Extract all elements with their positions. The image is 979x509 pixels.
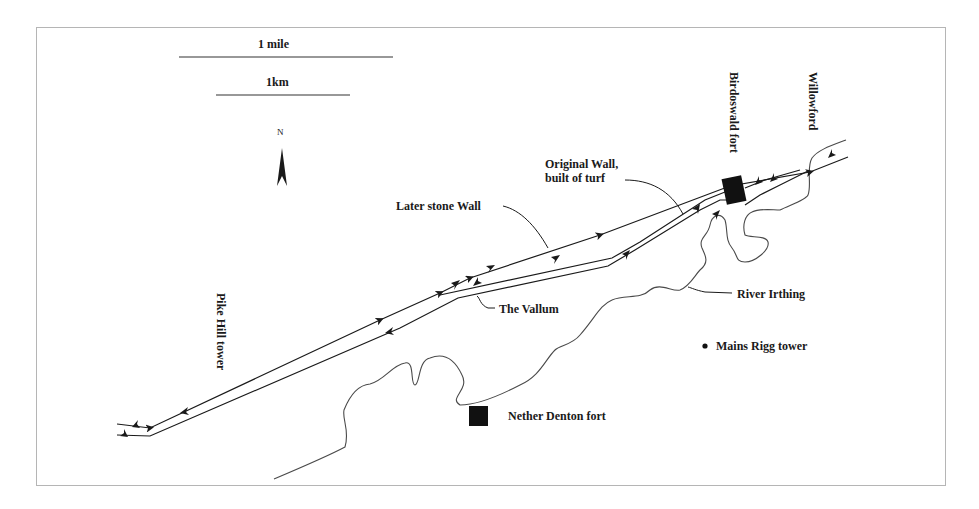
river-irthing-label: River Irthing bbox=[737, 287, 805, 301]
original-wall-label-1: Original Wall, bbox=[545, 157, 618, 171]
mains-rigg-tower-label: Mains Rigg tower bbox=[716, 339, 807, 353]
willowford-label: Willowford bbox=[806, 72, 820, 130]
north-arrow-icon bbox=[277, 148, 287, 186]
north-label: N bbox=[277, 127, 284, 137]
river-irthing-line bbox=[274, 140, 846, 479]
vallum-label: The Vallum bbox=[499, 302, 559, 316]
original-wall-label-2: built of turf bbox=[545, 171, 605, 185]
pike-hill-tower-label: Pike Hill tower bbox=[214, 293, 228, 370]
later-stone-wall-label: Later stone Wall bbox=[396, 199, 481, 213]
mains-rigg-tower-marker bbox=[702, 343, 707, 348]
scale-mile-label: 1 mile bbox=[258, 37, 289, 52]
nether-denton-fort-marker bbox=[469, 406, 488, 426]
scale-km-label: 1km bbox=[266, 75, 289, 90]
map-drawing bbox=[0, 0, 979, 509]
birdoswald-fort-label: Birdoswald fort bbox=[727, 72, 741, 153]
nether-denton-fort-label: Nether Denton fort bbox=[508, 409, 606, 423]
